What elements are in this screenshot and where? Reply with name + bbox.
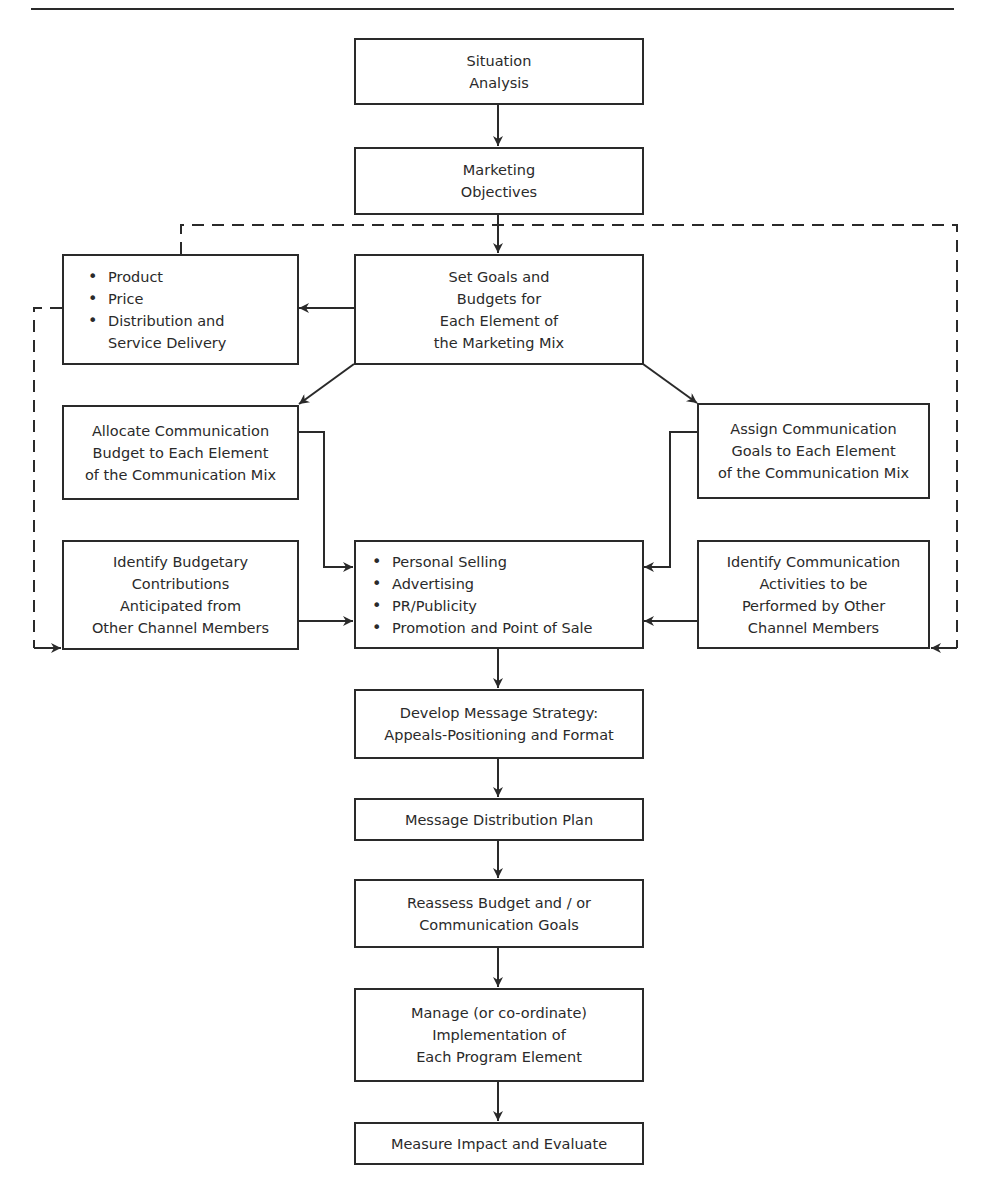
- communication-mix-list: Personal Selling Advertising PR/Publicit…: [356, 551, 593, 639]
- box-manage-implementation: Manage (or co-ordinate) Implementation o…: [354, 988, 644, 1082]
- box-label: Set Goals and Budgets for Each Element o…: [434, 266, 564, 354]
- box-reassess-budget-goals: Reassess Budget and / or Communication G…: [354, 879, 644, 948]
- dashed-line-to-budgetary: [34, 308, 62, 648]
- box-label: Identify Communication Activities to be …: [727, 551, 901, 639]
- box-communication-mix: Personal Selling Advertising PR/Publicit…: [354, 540, 644, 649]
- list-item: Price: [88, 288, 226, 310]
- box-marketing-objectives: Marketing Objectives: [354, 147, 644, 215]
- arrow-allocate-to-commmix: [298, 432, 353, 567]
- box-identify-budgetary-contributions: Identify Budgetary Contributions Anticip…: [62, 540, 299, 650]
- box-label: Measure Impact and Evaluate: [391, 1133, 607, 1155]
- box-label: Reassess Budget and / or Communication G…: [407, 892, 591, 936]
- list-item: Distribution and: [88, 310, 226, 332]
- box-label: Situation Analysis: [467, 50, 532, 94]
- list-item: Advertising: [372, 573, 593, 595]
- box-label: Identify Budgetary Contributions Anticip…: [92, 551, 269, 639]
- list-item-continuation: Service Delivery: [88, 332, 226, 354]
- marketing-communication-flowchart: Situation Analysis Marketing Objectives …: [0, 0, 987, 1193]
- arrow-setgoals-to-assign: [643, 364, 697, 403]
- box-measure-impact: Measure Impact and Evaluate: [354, 1122, 644, 1165]
- box-label: Message Distribution Plan: [405, 809, 593, 831]
- box-marketing-mix-elements: Product Price Distribution and Service D…: [62, 254, 299, 365]
- box-label: Marketing Objectives: [461, 159, 537, 203]
- list-item: Promotion and Point of Sale: [372, 617, 593, 639]
- marketing-mix-list: Product Price Distribution and Service D…: [64, 266, 226, 354]
- list-item: Personal Selling: [372, 551, 593, 573]
- list-item: PR/Publicity: [372, 595, 593, 617]
- box-label: Manage (or co-ordinate) Implementation o…: [411, 1002, 587, 1068]
- box-label: Allocate Communication Budget to Each El…: [85, 420, 276, 486]
- arrow-setgoals-to-allocate: [299, 364, 354, 404]
- box-label: Develop Message Strategy: Appeals-Positi…: [384, 702, 613, 746]
- list-item: Product: [88, 266, 226, 288]
- box-identify-communication-activities: Identify Communication Activities to be …: [697, 540, 930, 649]
- box-set-goals-budgets: Set Goals and Budgets for Each Element o…: [354, 254, 644, 365]
- box-allocate-communication-budget: Allocate Communication Budget to Each El…: [62, 405, 299, 500]
- box-label: Assign Communication Goals to Each Eleme…: [718, 418, 909, 484]
- box-message-distribution-plan: Message Distribution Plan: [354, 798, 644, 841]
- box-develop-message-strategy: Develop Message Strategy: Appeals-Positi…: [354, 689, 644, 759]
- arrow-assign-to-commmix: [644, 432, 697, 567]
- box-situation-analysis: Situation Analysis: [354, 38, 644, 105]
- box-assign-communication-goals: Assign Communication Goals to Each Eleme…: [697, 403, 930, 499]
